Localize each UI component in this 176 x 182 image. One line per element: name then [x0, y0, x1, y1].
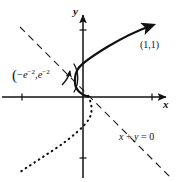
- curve-lower-branch-dotted: [20, 96, 92, 172]
- line-equation-label: x + y = 0: [119, 132, 154, 142]
- line-eq-equals-zero: = 0: [139, 131, 155, 142]
- figure-canvas: [0, 0, 176, 182]
- line-eq-plus: +: [123, 131, 134, 142]
- cusp-coordinate-label: (−e−2,e−2: [12, 68, 50, 83]
- cusp-exponent-first: −2: [28, 68, 35, 76]
- x-axis-label: x: [163, 99, 169, 110]
- cusp-exponent-second: −2: [42, 68, 49, 76]
- curve-upper-branch-solid: [79, 27, 149, 68]
- math-figure: y x (1,1) (−e−2,e−2 x + y = 0: [0, 0, 176, 182]
- y-axis-label: y: [73, 6, 78, 17]
- point-1-1-label: (1,1): [140, 40, 159, 50]
